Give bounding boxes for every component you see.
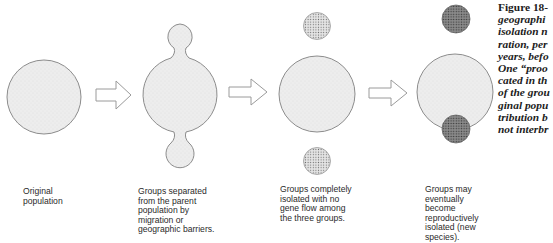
figure-caption: Figure 18- geographi isolation n ration,… bbox=[498, 1, 553, 135]
separating-groups-shape bbox=[143, 24, 217, 168]
arrow-right-icon bbox=[369, 80, 407, 106]
figure-caption-line: isolation n bbox=[498, 25, 553, 37]
reproductively-isolated-groups bbox=[417, 5, 493, 143]
original-population-circle bbox=[7, 60, 81, 134]
figure-caption-line: ginal popu bbox=[498, 99, 553, 111]
caption-reproductive: Groups may eventually become reproductiv… bbox=[425, 185, 479, 243]
caption-original: Original population bbox=[23, 187, 63, 206]
isolated-group-top bbox=[304, 13, 331, 40]
figure-caption-line: of the grou bbox=[498, 86, 553, 98]
parent-population-circle bbox=[279, 56, 355, 132]
figure-caption-line: tribution b bbox=[498, 111, 553, 123]
figure-caption-line: cated in th bbox=[498, 74, 553, 86]
isolated-groups bbox=[279, 13, 355, 175]
arrow-right-icon bbox=[96, 81, 131, 109]
figure-caption-line: geographi bbox=[498, 13, 553, 25]
figure-caption-line: years, befo bbox=[498, 50, 553, 62]
figure-caption-line: One “proo bbox=[498, 62, 553, 74]
isolated-group-bottom bbox=[304, 148, 331, 175]
figure-caption-line: ration, per bbox=[498, 38, 553, 50]
caption-isolated: Groups completely isolated with no gene … bbox=[280, 185, 352, 223]
new-species-top bbox=[442, 5, 470, 33]
figure-caption-line: not interbr bbox=[498, 123, 553, 135]
figure-label: Figure 18- bbox=[498, 1, 553, 13]
arrow-right-icon bbox=[229, 79, 267, 105]
caption-separated: Groups separated from the parent populat… bbox=[138, 187, 214, 235]
new-species-bottom bbox=[442, 115, 470, 143]
